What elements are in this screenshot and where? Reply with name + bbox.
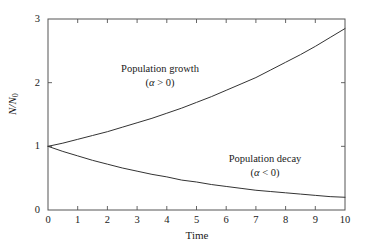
axis-ticks	[48, 19, 345, 210]
y-axis-title: N/N0	[6, 93, 20, 115]
x-tick-label-9: 9	[313, 215, 318, 226]
y-tick-label-2: 2	[22, 77, 40, 88]
annotation-population-growth: Population growth (α > 0)	[121, 62, 199, 90]
annotation-population-decay: Population decay (α < 0)	[229, 152, 302, 180]
y-axis-title-main: N/N	[6, 97, 18, 115]
y-tick-label-1: 1	[22, 141, 40, 152]
annotation-decay-condition: (α < 0)	[229, 166, 302, 180]
annotation-growth-condition: (α > 0)	[121, 76, 199, 90]
annotation-growth-relation: > 0)	[155, 77, 175, 88]
x-tick-label-8: 8	[283, 215, 288, 226]
x-tick-label-3: 3	[134, 215, 139, 226]
x-tick-label-10: 10	[340, 215, 351, 226]
annotation-growth-label: Population growth	[121, 63, 199, 74]
y-tick-label-0: 0	[22, 205, 40, 216]
figure-container: 0123 012345678910 Time N/N0 Population g…	[0, 0, 367, 251]
x-tick-label-2: 2	[105, 215, 110, 226]
x-tick-label-5: 5	[194, 215, 199, 226]
x-tick-label-0: 0	[45, 215, 50, 226]
annotation-decay-label: Population decay	[229, 153, 302, 164]
annotation-decay-relation: < 0)	[260, 167, 280, 178]
axes-frame	[48, 19, 345, 210]
y-tick-label-3: 3	[22, 14, 40, 25]
y-axis-title-subscript: 0	[11, 93, 20, 97]
x-tick-label-1: 1	[75, 215, 80, 226]
x-tick-label-4: 4	[164, 215, 169, 226]
x-tick-label-6: 6	[224, 215, 229, 226]
x-axis-title: Time	[186, 229, 209, 241]
x-tick-label-7: 7	[253, 215, 258, 226]
plot-frame	[48, 19, 345, 210]
